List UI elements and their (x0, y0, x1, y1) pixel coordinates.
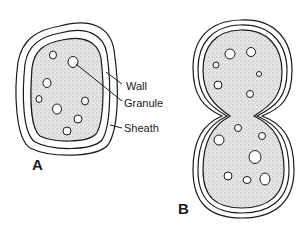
label-sheath: Sheath (124, 122, 159, 134)
cytoplasm-a (31, 38, 103, 141)
cell-b: B (178, 20, 294, 218)
cell-a: Wall Granule Sheath A (16, 23, 163, 173)
cell-diagram: Wall Granule Sheath A B (0, 0, 301, 233)
label-wall: Wall (126, 80, 147, 92)
leader-wall (106, 72, 122, 84)
figure-label-a: A (32, 156, 43, 173)
label-granule: Granule (124, 97, 163, 109)
leader-sheath (110, 125, 122, 128)
figure-label-b: B (178, 200, 189, 217)
